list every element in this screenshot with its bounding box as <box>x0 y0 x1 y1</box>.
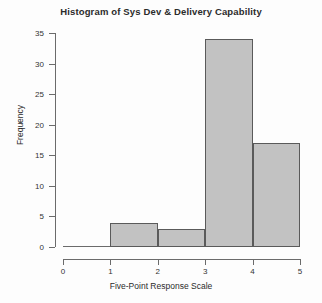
plot-area <box>63 33 300 247</box>
histogram-chart: Histogram of Sys Dev & Delivery Capabili… <box>0 0 322 303</box>
y-axis-tick-label: 20 <box>4 121 44 130</box>
x-axis-tick <box>300 259 301 265</box>
y-axis-tick <box>49 64 55 65</box>
y-axis-tick-label: 5 <box>4 212 44 221</box>
y-axis-tick <box>49 216 55 217</box>
y-axis-tick <box>49 247 55 248</box>
y-axis-tick <box>49 155 55 156</box>
y-axis-tick-label: 10 <box>4 182 44 191</box>
y-axis-tick <box>49 186 55 187</box>
histogram-bar <box>253 143 300 247</box>
y-axis-tick <box>49 125 55 126</box>
y-axis-tick-label: 0 <box>4 243 44 252</box>
x-axis-tick-label: 5 <box>285 267 315 276</box>
chart-title: Histogram of Sys Dev & Delivery Capabili… <box>0 6 322 17</box>
y-axis-tick-label: 35 <box>4 29 44 38</box>
x-axis-tick <box>110 259 111 265</box>
y-axis-tick-label: 30 <box>4 60 44 69</box>
x-axis-line <box>63 259 300 260</box>
y-axis-tick-label: 25 <box>4 90 44 99</box>
x-axis-title: Five-Point Response Scale <box>0 281 322 291</box>
histogram-bar <box>158 229 205 247</box>
y-axis-tick-label: 15 <box>4 151 44 160</box>
x-axis-tick-label: 0 <box>48 267 78 276</box>
x-axis-tick <box>158 259 159 265</box>
x-axis-tick <box>63 259 64 265</box>
x-axis-tick-label: 4 <box>238 267 268 276</box>
histogram-bar <box>110 223 157 247</box>
x-axis-tick-label: 1 <box>95 267 125 276</box>
x-axis-tick-label: 2 <box>143 267 173 276</box>
x-axis-tick <box>253 259 254 265</box>
y-axis-tick <box>49 33 55 34</box>
x-axis-tick <box>205 259 206 265</box>
histogram-bar <box>205 39 252 247</box>
y-axis-line <box>55 33 56 247</box>
x-axis-tick-label: 3 <box>190 267 220 276</box>
y-axis-tick <box>49 94 55 95</box>
